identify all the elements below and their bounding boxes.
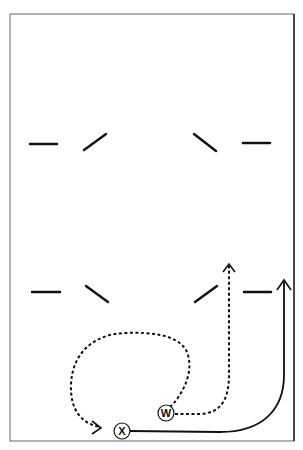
routes: [71, 264, 291, 434]
arrowhead-icon: [92, 421, 101, 434]
defender-marker: [195, 286, 217, 302]
defender-row-2: [32, 286, 271, 302]
defender-marker: [194, 134, 216, 151]
defender-marker: [86, 286, 108, 302]
player-x-label: X: [118, 425, 126, 437]
play-diagram: X W: [0, 0, 303, 450]
player-w: W: [158, 405, 174, 421]
x-wheel-route: [130, 282, 284, 432]
w-vertical-route: [175, 266, 229, 414]
defender-row-1: [30, 134, 270, 151]
player-x: X: [114, 423, 130, 439]
player-w-label: W: [161, 407, 172, 419]
field-frame: [10, 14, 294, 441]
defender-marker: [84, 134, 106, 150]
